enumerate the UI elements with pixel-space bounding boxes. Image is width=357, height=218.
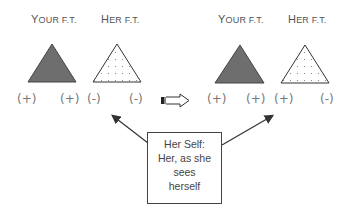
sign-right-3: (+) <box>274 92 293 106</box>
her-ft-triangle-left <box>93 44 141 82</box>
sign-right-4: (-) <box>320 92 334 106</box>
sign-right-1: (+) <box>207 92 226 106</box>
your-ft-label-right: YOUR F.T. <box>218 13 264 25</box>
your-ft-triangle-left <box>28 44 76 82</box>
her-ft-triangle-right <box>281 45 329 83</box>
your-ft-label-left: YOUR F.T. <box>31 13 77 25</box>
pointer-arrow-right <box>222 116 272 145</box>
callout-line-3: sees <box>148 165 221 179</box>
sign-right-2: (+) <box>246 92 265 106</box>
her-self-callout: Her Self: Her, as she sees herself <box>147 132 222 204</box>
sign-left-3: (-) <box>87 92 101 106</box>
transform-arrow-icon <box>161 94 189 107</box>
callout-line-1: Her Self: <box>148 137 221 151</box>
her-ft-label-right: HER F.T. <box>288 13 327 25</box>
her-ft-label-left: HER F.T. <box>101 13 140 25</box>
pointer-arrow-left <box>113 116 148 143</box>
your-ft-triangle-right <box>215 45 264 83</box>
callout-line-2: Her, as she <box>148 151 221 165</box>
callout-line-4: herself <box>148 179 221 193</box>
sign-left-4: (-) <box>129 92 143 106</box>
sign-left-2: (+) <box>60 92 79 106</box>
sign-left-1: (+) <box>17 92 36 106</box>
